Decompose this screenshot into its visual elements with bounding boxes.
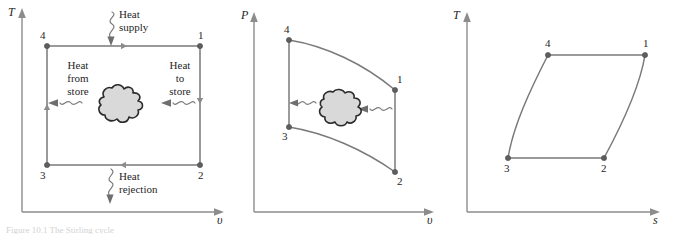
ts-diagram-svg: [450, 0, 680, 234]
tv-state-label-4: 4: [40, 30, 46, 41]
heat-to-store-line1: Heat: [158, 59, 202, 72]
heat-supply-label: Heat supply: [119, 8, 148, 34]
figure-caption: Figure 10.1 The Stirling cycle: [6, 226, 114, 234]
working-fluid-blob: [99, 85, 143, 122]
pv-working-fluid-blob: [320, 89, 362, 125]
ts-state-label-1: 1: [643, 38, 649, 49]
pv-y-axis: [250, 12, 258, 212]
heat-supply-line1: Heat: [119, 8, 148, 21]
pv-diagram-panel: P υ 4 1 2 3: [240, 0, 450, 234]
heat-from-store-line1: Heat: [56, 59, 100, 72]
pv-state-label-2: 2: [397, 176, 403, 187]
pv-regenerator-left-wavy-arrow-icon: [289, 99, 316, 106]
pv-regenerator-right-wavy-arrow-icon: [358, 105, 392, 113]
figure-root: T υ 4 1 3 2 Heat supply Heat from store …: [0, 0, 680, 234]
pv-state-label-3: 3: [282, 131, 288, 142]
pv-state-label-1: 1: [397, 74, 403, 85]
heat-rejection-line1: Heat: [119, 170, 157, 183]
heat-to-store-label: Heat to store: [158, 59, 202, 98]
tv-diagram-svg: [0, 0, 240, 234]
heat-to-store-wavy-arrow-icon: [161, 99, 195, 107]
heat-from-store-line3: store: [56, 85, 100, 98]
ts-state-label-2: 2: [601, 163, 607, 174]
pv-x-axis-label: υ: [427, 214, 433, 226]
heat-supply-wavy-arrow-icon: [107, 12, 114, 46]
tv-x-axis-label: υ: [217, 214, 223, 226]
heat-rejection-label: Heat rejection: [119, 170, 157, 196]
ts-y-axis-label: T: [453, 9, 460, 21]
tv-diagram-panel: T υ 4 1 3 2 Heat supply Heat from store …: [0, 0, 240, 234]
ts-state-label-4: 4: [545, 38, 551, 49]
tv-state-label-3: 3: [40, 170, 46, 181]
tv-state-label-1: 1: [198, 30, 204, 41]
heat-rejection-line2: rejection: [119, 183, 157, 196]
pv-y-axis-label: P: [241, 9, 248, 21]
tv-y-axis-label: T: [8, 6, 15, 18]
tv-state-label-2: 2: [198, 170, 204, 181]
ts-y-axis: [463, 12, 471, 212]
pv-x-axis: [254, 208, 434, 216]
ts-x-axis: [467, 208, 660, 216]
pv-state-label-4: 4: [284, 24, 290, 35]
heat-to-store-line3: store: [158, 85, 202, 98]
ts-cycle-path: [508, 55, 645, 158]
ts-diagram-panel: T s 4 1 2 3: [450, 0, 680, 234]
heat-supply-line2: supply: [119, 21, 148, 34]
tv-y-axis: [18, 8, 26, 212]
heat-from-store-line2: from: [56, 72, 100, 85]
heat-from-store-label: Heat from store: [56, 59, 100, 98]
pv-diagram-svg: [240, 0, 450, 234]
heat-rejection-wavy-arrow-icon: [106, 169, 113, 204]
ts-state-label-3: 3: [504, 163, 510, 174]
heat-from-store-wavy-arrow-icon: [48, 99, 82, 107]
ts-state-dots: [505, 52, 647, 160]
ts-x-axis-label: s: [653, 214, 658, 226]
tv-x-axis: [22, 208, 224, 216]
heat-to-store-line2: to: [158, 72, 202, 85]
